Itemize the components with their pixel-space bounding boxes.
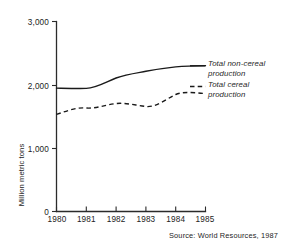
legend-item-non-cereal[interactable]: Total non-cereal production: [207, 59, 265, 78]
x-tick-label-1985: 1985: [196, 215, 215, 224]
y-tick-marks: [52, 22, 57, 212]
x-tick-label-1982: 1982: [107, 215, 126, 224]
legend-leader-lines: [190, 66, 206, 87]
x-tick-label-1981: 1981: [77, 215, 96, 224]
y-tick-label-1000: 1,000: [28, 145, 50, 154]
legend-label-cereal-line2: production: [207, 90, 245, 99]
legend: Total non-cereal production Total cereal…: [207, 59, 265, 99]
line-chart: 3,000 2,000 1,000 0 1980 1981 1982 1983 …: [0, 0, 284, 246]
x-tick-label-1984: 1984: [166, 215, 185, 224]
y-tick-label-3000: 3,000: [28, 18, 50, 27]
y-tick-labels: 3,000 2,000 1,000 0: [28, 18, 50, 217]
chart-series: [57, 66, 206, 115]
legend-item-cereal[interactable]: Total cereal production: [207, 80, 249, 99]
x-tick-label-1980: 1980: [48, 215, 67, 224]
source-caption: Source: World Resources, 1987: [169, 231, 278, 240]
legend-label-non-cereal-line1: Total non-cereal: [208, 59, 265, 68]
y-tick-label-2000: 2,000: [28, 82, 50, 91]
x-tick-label-1983: 1983: [136, 215, 155, 224]
legend-label-non-cereal-line2: production: [207, 69, 245, 78]
legend-label-cereal-line1: Total cereal: [208, 80, 249, 89]
chart-page: 3,000 2,000 1,000 0 1980 1981 1982 1983 …: [0, 0, 284, 246]
x-tick-labels: 1980 1981 1982 1983 1984 1985: [48, 215, 215, 224]
x-tick-marks: [57, 207, 206, 212]
series-line-cereal: [57, 92, 206, 114]
y-axis-title: Million metric tons: [17, 144, 26, 207]
series-line-non-cereal: [57, 66, 206, 89]
chart-axes: [57, 22, 206, 212]
